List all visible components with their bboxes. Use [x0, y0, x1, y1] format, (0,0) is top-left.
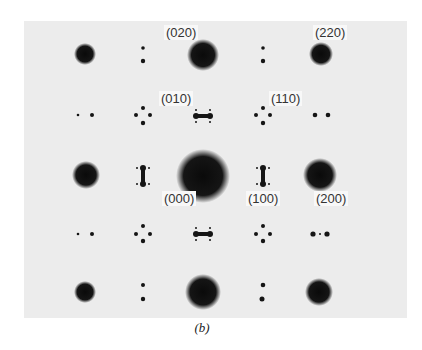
label-000: (000)	[162, 191, 196, 206]
spot-large	[74, 281, 96, 303]
spot-200	[303, 158, 337, 192]
spot-dumbbell	[193, 227, 213, 241]
label-200: (200)	[314, 191, 348, 206]
label-010: (010)	[159, 91, 193, 106]
spot-pair-vertical	[141, 283, 145, 301]
spot-cross	[254, 106, 272, 125]
label-220: (220)	[313, 25, 347, 40]
spot-large	[185, 274, 221, 310]
spot-020	[187, 39, 219, 71]
spot-large	[305, 278, 333, 306]
spot-pair-vertical	[260, 283, 266, 302]
figure-caption: (b)	[190, 320, 214, 336]
spot-220	[309, 42, 333, 66]
spot-large	[74, 43, 96, 65]
diffraction-figure: (020) (220) (010) (110) (000) (100) (200…	[0, 0, 422, 350]
spot-pair-horizontal	[310, 231, 329, 236]
spot-cross	[134, 106, 152, 125]
diffraction-spots	[0, 0, 422, 350]
spot-dumbbell-vertical	[256, 165, 270, 187]
spot-cross	[134, 224, 152, 243]
spot-cross	[254, 224, 272, 243]
label-110: (110)	[269, 91, 302, 106]
spot-pair-horizontal	[77, 232, 94, 236]
spot-large	[72, 161, 100, 189]
spot-pair-vertical	[261, 46, 265, 63]
spot-dumbbell	[193, 109, 213, 123]
spot-pair-horizontal	[77, 113, 94, 117]
spot-pair-horizontal	[313, 113, 331, 118]
spot-pair-vertical	[141, 46, 145, 63]
spot-dumbbell-vertical	[136, 165, 150, 187]
label-100: (100)	[246, 191, 280, 206]
label-020: (020)	[164, 25, 198, 40]
